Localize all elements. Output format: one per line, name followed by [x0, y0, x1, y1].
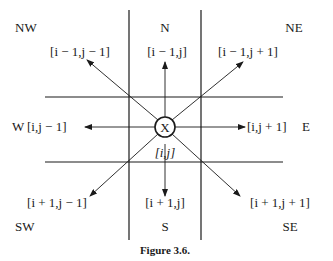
index-ne: [i − 1,j + 1] [218, 44, 278, 59]
east-label-group: [i,j + 1] E [247, 119, 310, 134]
arrow-ne [172, 62, 243, 120]
west-label-group: W [i,j − 1] [12, 119, 66, 134]
index-n: [i − 1,j] [147, 44, 186, 59]
label-ne: NE [285, 20, 302, 35]
label-w: W [12, 119, 25, 134]
index-sw: [i + 1,j − 1] [27, 195, 87, 210]
neighborhood-diagram: X [i,j] NW N NE SW S SE [i − 1,j − 1] [i… [0, 0, 333, 261]
arrow-se [172, 134, 240, 196]
arrow-sw [90, 134, 158, 196]
center-symbol: X [160, 120, 170, 135]
center-index: [i,j] [155, 145, 176, 160]
index-s: [i + 1,j] [145, 195, 184, 210]
index-w: [i,j − 1] [27, 119, 66, 134]
index-se: [i + 1,j + 1] [250, 195, 310, 210]
label-n: N [160, 20, 170, 35]
index-nw: [i − 1,j − 1] [50, 44, 110, 59]
label-nw: NW [15, 20, 37, 35]
label-s: S [161, 219, 168, 234]
label-sw: SW [15, 219, 35, 234]
index-e: [i,j + 1] [247, 119, 286, 134]
arrow-nw [87, 60, 158, 120]
label-se: SE [282, 219, 297, 234]
label-e: E [302, 119, 310, 134]
figure-caption: Figure 3.6. [140, 244, 190, 256]
